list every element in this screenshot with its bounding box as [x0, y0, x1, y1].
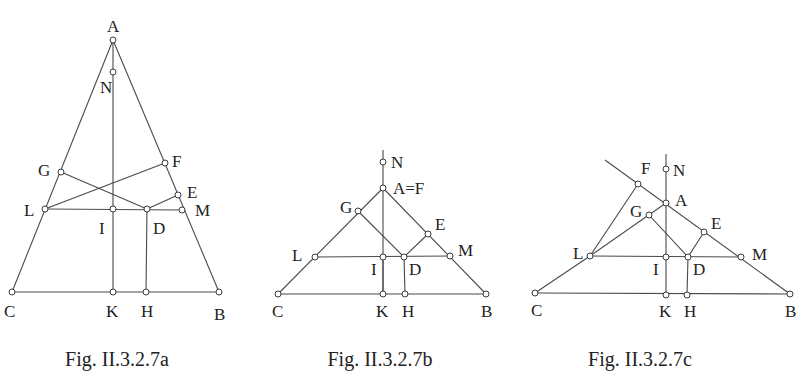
segment-G-D: [649, 215, 688, 257]
point-label: H: [141, 302, 153, 321]
figure-c-points: [532, 166, 793, 298]
geometry-figures: ANGFELMIDCKHB Fig. II.3.2.7a NA=FGELMIDC…: [0, 0, 802, 376]
point-label: C: [272, 302, 283, 321]
point-label: B: [481, 302, 492, 321]
point-label: M: [458, 241, 473, 260]
point-L-marker: [42, 206, 48, 212]
point-label: F: [641, 159, 650, 178]
point-N-marker: [110, 69, 116, 75]
point-label: H: [684, 302, 696, 321]
point-F-marker: [162, 160, 168, 166]
point-E-marker: [425, 231, 431, 237]
point-K-marker: [663, 292, 669, 298]
point-label: L: [24, 201, 34, 220]
point-G-marker: [355, 208, 361, 214]
point-C-marker: [275, 291, 281, 297]
point-label: L: [573, 244, 583, 263]
point-label: D: [153, 219, 165, 238]
point-label: E: [435, 215, 445, 234]
point-L-marker: [312, 254, 318, 260]
point-E-marker: [701, 229, 707, 235]
figure-a-labels: ANGFELMIDCKHB: [4, 17, 225, 324]
point-I-marker: [380, 254, 386, 260]
point-label: E: [187, 183, 197, 202]
segment-D-H: [404, 257, 405, 294]
figure-b: NA=FGELMIDCKHB Fig. II.3.2.7b: [272, 150, 492, 371]
figure-a-caption: Fig. II.3.2.7a: [65, 348, 169, 371]
point-N-marker: [380, 159, 386, 165]
point-label: M: [195, 201, 210, 220]
segment-D-E: [147, 195, 178, 209]
point-label: G: [630, 202, 642, 221]
point-label: F: [172, 152, 181, 171]
segment-D-H: [146, 209, 147, 292]
point-K-marker: [380, 291, 386, 297]
point-D-marker: [144, 206, 150, 212]
figure-c: FNAGELMIDCKHB Fig. II.3.2.7c: [531, 154, 796, 371]
point-E-marker: [175, 192, 181, 198]
point-B-marker: [216, 289, 222, 295]
point-L-marker: [587, 253, 593, 259]
point-K-marker: [110, 289, 116, 295]
segment-D-E: [688, 232, 704, 257]
point-M-marker: [179, 207, 185, 213]
point-label: B: [214, 305, 225, 324]
point-H-marker: [402, 291, 408, 297]
point-label: E: [711, 214, 721, 233]
point-label: K: [376, 302, 389, 321]
point-label: A=F: [393, 179, 424, 198]
segment-C-B: [535, 293, 790, 294]
figure-b-caption: Fig. II.3.2.7b: [328, 348, 433, 371]
point-D-marker: [401, 254, 407, 260]
point-label: H: [402, 302, 414, 321]
segment-L-A: [590, 203, 666, 256]
point-A=F-marker: [380, 185, 386, 191]
segment-D-H: [687, 257, 688, 295]
point-M-marker: [738, 254, 744, 260]
point-label: I: [371, 260, 377, 279]
point-G-marker: [58, 169, 64, 175]
point-label: N: [673, 161, 685, 180]
segment-A=F-C: [278, 188, 383, 294]
point-label: C: [4, 302, 15, 321]
point-label: N: [100, 78, 112, 97]
point-label: B: [785, 302, 796, 321]
segment-G-D: [61, 172, 147, 209]
point-label: C: [531, 301, 542, 320]
point-C-marker: [532, 290, 538, 296]
point-label: N: [391, 153, 403, 172]
figure-c-caption: Fig. II.3.2.7c: [588, 348, 692, 371]
point-A-marker: [663, 200, 669, 206]
point-I-marker: [110, 206, 116, 212]
point-label: K: [659, 302, 672, 321]
point-A-marker: [110, 37, 116, 43]
point-F-marker: [635, 181, 641, 187]
point-label: L: [292, 246, 302, 265]
point-label: I: [99, 219, 105, 238]
segment-D-E: [404, 234, 428, 257]
point-B-marker: [483, 291, 489, 297]
point-label: A: [675, 191, 688, 210]
figure-a: ANGFELMIDCKHB Fig. II.3.2.7a: [4, 17, 225, 371]
segment-A-C: [12, 40, 113, 292]
point-G-marker: [646, 212, 652, 218]
point-label: D: [693, 260, 705, 279]
point-label: I: [653, 260, 659, 279]
point-H-marker: [684, 292, 690, 298]
figure-b-lines: [278, 150, 486, 294]
point-label: K: [106, 302, 119, 321]
point-label: A: [107, 17, 120, 36]
point-B-marker: [787, 291, 793, 297]
point-label: D: [409, 260, 421, 279]
figure-b-points: [275, 159, 489, 297]
point-I-marker: [663, 254, 669, 260]
figure-c-lines: [535, 154, 790, 295]
segment-G-D: [358, 211, 404, 257]
point-label: G: [340, 198, 352, 217]
point-D-marker: [685, 254, 691, 260]
point-label: M: [752, 245, 767, 264]
point-C-marker: [9, 289, 15, 295]
point-label: G: [38, 161, 50, 180]
point-H-marker: [143, 289, 149, 295]
point-N-marker: [663, 166, 669, 172]
